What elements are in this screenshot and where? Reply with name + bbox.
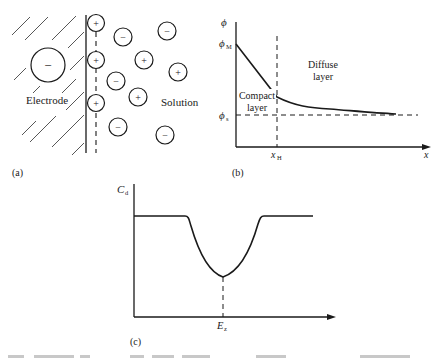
svg-text:s: s bbox=[226, 115, 229, 122]
svg-text:ϕ: ϕ bbox=[219, 37, 225, 49]
phi-M-label: ϕ M bbox=[219, 37, 232, 50]
clipped-caption-strip bbox=[8, 355, 410, 358]
b-y-axis-label: ϕ bbox=[221, 16, 227, 28]
svg-text:+: + bbox=[93, 18, 99, 29]
svg-text:−: − bbox=[44, 58, 51, 73]
panel-b-label: (b) bbox=[232, 167, 244, 179]
compact-layer-label-line1: Compact bbox=[239, 90, 275, 101]
svg-text:+: + bbox=[135, 92, 141, 103]
svg-text:−: − bbox=[115, 122, 121, 133]
adsorbed-ion-2: + bbox=[88, 52, 105, 69]
phi-s-label: ϕ s bbox=[219, 109, 229, 122]
capacitance-curve bbox=[134, 216, 313, 277]
svg-text:−: − bbox=[113, 76, 119, 87]
svg-text:H: H bbox=[277, 154, 282, 161]
solution-ion-4: + bbox=[169, 63, 187, 81]
e-z-label: E z bbox=[216, 320, 227, 332]
electrode-charge: − bbox=[31, 48, 65, 82]
svg-text:−: − bbox=[162, 130, 168, 141]
electrode-hatching bbox=[12, 16, 84, 155]
svg-text:d: d bbox=[125, 189, 129, 196]
panel-b-potential-profile: ϕ ϕ M ϕ s x H x Compact layer Diffuse la… bbox=[219, 16, 431, 179]
electrode-label: Electrode bbox=[26, 94, 68, 106]
double-layer-figure: − + + + − − + bbox=[0, 0, 443, 359]
svg-text:C: C bbox=[117, 183, 125, 195]
solution-ion-8: − bbox=[156, 126, 174, 144]
svg-text:+: + bbox=[175, 67, 181, 78]
solution-ion-2: − bbox=[158, 22, 176, 40]
svg-text:+: + bbox=[93, 98, 99, 109]
diffuse-layer-label-line2: layer bbox=[313, 71, 334, 82]
b-x-axis-label: x bbox=[423, 149, 429, 160]
panel-c-label: (c) bbox=[130, 336, 141, 348]
svg-text:z: z bbox=[224, 325, 227, 332]
svg-text:+: + bbox=[93, 55, 99, 66]
adsorbed-ion-3: + bbox=[88, 95, 105, 112]
svg-text:−: − bbox=[164, 26, 170, 37]
svg-text:x: x bbox=[270, 149, 276, 160]
x-H-label: x H bbox=[270, 149, 282, 161]
adsorbed-ion-1: + bbox=[88, 15, 105, 32]
compact-layer-label-line2: layer bbox=[247, 102, 268, 113]
solution-ion-7: − bbox=[109, 118, 127, 136]
solution-ion-6: + bbox=[129, 88, 147, 106]
svg-text:ϕ: ϕ bbox=[219, 109, 225, 121]
svg-text:−: − bbox=[120, 32, 126, 43]
c-x-axis-arrow-icon bbox=[327, 314, 336, 320]
panel-a-electrode-solution-model: − + + + − − + bbox=[12, 14, 199, 179]
solution-ion-5: − bbox=[107, 72, 125, 90]
panel-c-capacitance-curve: C d E z (c) bbox=[117, 183, 336, 348]
panel-a-label: (a) bbox=[12, 167, 23, 179]
diffuse-layer-label-line1: Diffuse bbox=[308, 59, 338, 70]
svg-text:+: + bbox=[141, 55, 147, 66]
svg-text:E: E bbox=[216, 320, 224, 331]
c-y-axis-label: C d bbox=[117, 183, 129, 196]
solution-ion-1: − bbox=[114, 28, 132, 46]
solution-ion-3: + bbox=[135, 51, 153, 69]
solution-label: Solution bbox=[161, 96, 199, 108]
svg-text:M: M bbox=[226, 43, 232, 50]
